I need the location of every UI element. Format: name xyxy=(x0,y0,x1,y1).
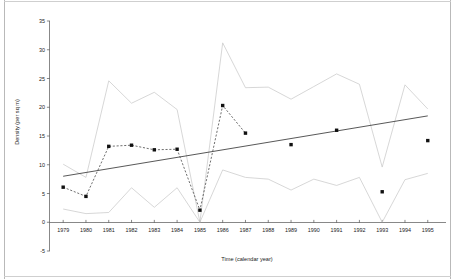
data-point-marker xyxy=(335,129,338,132)
x-axis: 1979198019811982198319841985198619871988… xyxy=(50,220,447,233)
x-tick-label: 1987 xyxy=(239,227,251,233)
x-tick-label: 1982 xyxy=(126,227,138,233)
x-tick-label: 1994 xyxy=(399,227,411,233)
x-tick-label: 1986 xyxy=(217,227,229,233)
observed-series-markers xyxy=(61,104,429,212)
x-tick-label: 1995 xyxy=(422,227,434,233)
x-tick-label: 1980 xyxy=(80,227,92,233)
data-point-marker xyxy=(381,190,384,193)
y-axis-title: Density (per sq m) xyxy=(14,99,20,145)
data-point-marker xyxy=(84,195,87,198)
y-tick-label: 5 xyxy=(42,191,45,197)
data-point-marker xyxy=(107,145,110,148)
data-point-marker xyxy=(175,148,178,151)
x-tick-label: 1990 xyxy=(308,227,320,233)
data-point-marker xyxy=(289,143,292,146)
x-tick-label: 1983 xyxy=(148,227,160,233)
data-point-marker xyxy=(130,144,133,147)
data-point-marker xyxy=(426,139,429,142)
y-axis-tick-labels: -505101520253035 xyxy=(39,18,45,254)
y-tick-label: 0 xyxy=(42,219,45,225)
data-point-marker xyxy=(153,148,156,151)
x-axis-title: Time (calendar year) xyxy=(221,256,273,262)
x-axis-tick-labels: 1979198019811982198319841985198619871988… xyxy=(57,227,434,233)
data-point-marker xyxy=(61,185,64,188)
lower-confidence-line xyxy=(63,170,428,222)
y-axis: -505101520253035 xyxy=(39,18,50,254)
x-tick-label: 1993 xyxy=(376,227,388,233)
data-point-marker xyxy=(244,131,247,134)
x-tick-label: 1979 xyxy=(57,227,69,233)
x-tick-label: 1992 xyxy=(353,227,365,233)
y-tick-label: 10 xyxy=(39,162,45,168)
y-tick-label: 15 xyxy=(39,133,45,139)
chart-page: -505101520253035 19791980198119821983198… xyxy=(0,0,455,279)
x-tick-label: 1981 xyxy=(103,227,115,233)
y-tick-label: 35 xyxy=(39,18,45,24)
y-tick-label: -5 xyxy=(40,248,45,254)
x-tick-label: 1988 xyxy=(262,227,274,233)
y-tick-label: 30 xyxy=(39,47,45,53)
x-tick-label: 1984 xyxy=(171,227,183,233)
density-time-chart: -505101520253035 19791980198119821983198… xyxy=(0,0,455,279)
y-tick-label: 25 xyxy=(39,76,45,82)
y-tick-label: 20 xyxy=(39,104,45,110)
data-point-marker xyxy=(221,104,224,107)
x-tick-label: 1985 xyxy=(194,227,206,233)
x-tick-label: 1991 xyxy=(331,227,343,233)
data-point-marker xyxy=(198,208,201,211)
x-tick-label: 1989 xyxy=(285,227,297,233)
